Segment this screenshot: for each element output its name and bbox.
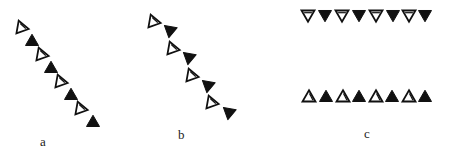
filled-triangle-down-icon — [419, 10, 432, 21]
filled-triangle-down-icon — [162, 25, 177, 38]
filled-triangle-up-icon — [26, 34, 39, 45]
filled-triangle-up-icon — [386, 90, 399, 101]
filled-triangle-down-icon — [387, 10, 400, 21]
open-triangle-up-icon — [33, 45, 49, 60]
open-triangle-up-icon — [183, 66, 199, 81]
open-triangle-down-icon — [302, 10, 315, 21]
filled-triangle-down-icon — [181, 52, 196, 65]
open-triangle-up-icon — [337, 90, 350, 101]
panel-label-c: c — [364, 126, 370, 142]
open-triangle-up-icon — [145, 12, 161, 27]
panel-label-a: a — [40, 134, 46, 150]
filled-triangle-down-icon — [200, 80, 215, 93]
filled-triangle-up-icon — [320, 90, 333, 101]
filled-triangle-up-icon — [65, 88, 78, 99]
panel-b-triangles — [145, 12, 237, 120]
open-triangle-up-icon — [303, 90, 316, 101]
open-triangle-down-icon — [403, 10, 416, 21]
filled-triangle-down-icon — [353, 10, 366, 21]
open-triangle-up-icon — [370, 90, 383, 101]
open-triangle-up-icon — [403, 90, 416, 101]
panel-label-b: b — [178, 127, 185, 143]
open-triangle-up-icon — [203, 93, 219, 108]
filled-triangle-up-icon — [45, 61, 58, 72]
open-triangle-up-icon — [52, 72, 68, 87]
filled-triangle-down-icon — [221, 107, 236, 120]
filled-triangle-up-icon — [419, 90, 432, 101]
open-triangle-up-icon — [13, 18, 29, 33]
open-triangle-down-icon — [370, 10, 383, 21]
filled-triangle-down-icon — [319, 10, 332, 21]
figure-canvas — [0, 0, 452, 159]
open-triangle-down-icon — [336, 10, 349, 21]
panel-a-triangles — [13, 18, 100, 126]
filled-triangle-up-icon — [353, 90, 366, 101]
open-triangle-up-icon — [164, 39, 180, 54]
open-triangle-up-icon — [72, 99, 88, 114]
filled-triangle-up-icon — [87, 115, 100, 126]
panel-c-triangles — [302, 10, 432, 101]
